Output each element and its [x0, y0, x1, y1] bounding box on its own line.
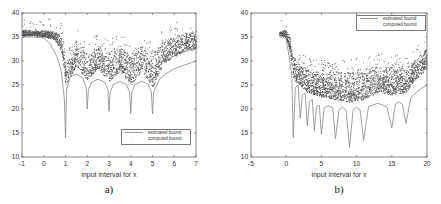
x-tick-label: -5	[248, 160, 254, 167]
x-tick-label: 10	[353, 160, 361, 167]
y-tick-label: 20	[241, 105, 249, 112]
x-tick-label: -1	[19, 160, 25, 167]
y-tick-label: 10	[241, 153, 249, 160]
y-tick-label: 25	[241, 81, 249, 88]
chart-panel-a: -10123456710152025303540 input interval …	[0, 0, 220, 204]
x-tick-label: 5	[320, 160, 324, 167]
y-tick-label: 40	[241, 9, 249, 16]
legend-dot-icon: ·	[132, 136, 134, 142]
legend-label-computed: computed bound	[383, 22, 417, 27]
y-tick-label: 30	[241, 57, 249, 64]
x-tick-label: 7	[194, 160, 198, 167]
y-tick-label: 40	[12, 9, 20, 16]
legend-line-icon	[125, 132, 143, 133]
y-tick-label: 10	[12, 153, 20, 160]
chart-panel-b: -50510152010152025303540 input interval …	[220, 0, 441, 204]
x-tick-label: 1	[64, 160, 68, 167]
caption-a: a)	[22, 183, 196, 195]
y-tick-label: 15	[12, 129, 20, 136]
legend-dot-icon: ·	[367, 22, 369, 28]
caption-b: b)	[251, 183, 427, 195]
legend-b: estimated bound · computed bound	[356, 15, 426, 31]
x-tick-label: 20	[423, 160, 431, 167]
x-tick-label: 4	[129, 160, 133, 167]
y-tick-label: 15	[241, 129, 249, 136]
y-tick-label: 25	[12, 81, 20, 88]
computed-bound-scatter	[279, 20, 427, 102]
x-tick-label: 0	[284, 160, 288, 167]
y-tick-label: 20	[12, 105, 20, 112]
xlabel-a: input interval for x	[22, 171, 196, 178]
legend-line-icon	[360, 18, 378, 19]
x-tick-label: 3	[107, 160, 111, 167]
x-tick-label: 6	[172, 160, 176, 167]
x-tick-label: 2	[85, 160, 89, 167]
x-tick-label: 5	[151, 160, 155, 167]
y-tick-label: 35	[12, 33, 20, 40]
computed-bound-scatter	[22, 19, 197, 87]
legend-label-computed: computed bound	[148, 136, 182, 141]
legend-label-estimated: estimated bound	[148, 130, 181, 135]
y-tick-label: 30	[12, 57, 20, 64]
legend-label-estimated: estimated bound	[383, 16, 416, 21]
x-tick-label: 15	[388, 160, 396, 167]
y-tick-label: 35	[241, 33, 249, 40]
legend-a: estimated bound · computed bound	[121, 129, 191, 145]
x-tick-label: 0	[42, 160, 46, 167]
xlabel-b: input interval for x	[251, 171, 427, 178]
